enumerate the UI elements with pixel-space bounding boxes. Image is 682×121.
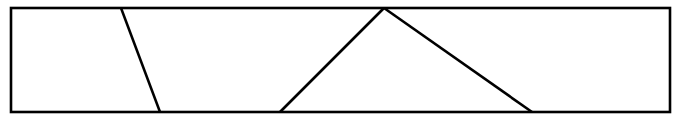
figure-background (0, 0, 682, 121)
geometric-figure: Rectangle partitioned by three straight … (0, 0, 682, 121)
